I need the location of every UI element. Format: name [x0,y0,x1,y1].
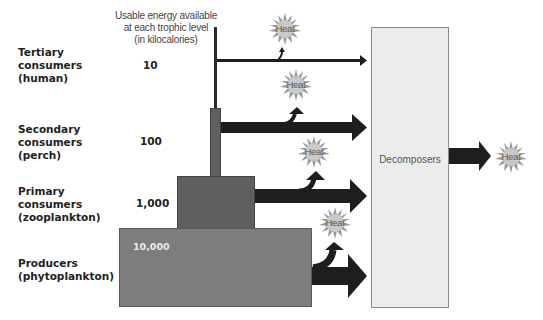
heat-burst-secondary: Heat [280,69,312,101]
heat-burst-tertiary: Heat [269,13,301,45]
decomposers-label: Decomposers [372,154,448,165]
heat-burst-producers: Heat [319,207,351,239]
heat-burst-decomposers: Heat [495,141,527,173]
heat-burst-primary: Heat [298,136,330,168]
decomposers-box: Decomposers [371,27,449,308]
energy-flow-arrows [0,0,543,320]
